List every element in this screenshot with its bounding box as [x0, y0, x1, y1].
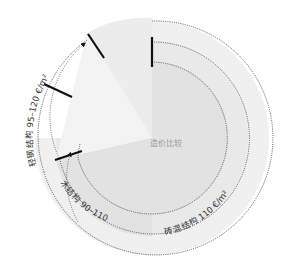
- center-title: 造价比较: [150, 138, 182, 148]
- cost-comparison-diagram: 轻钢结构 95–120 €/m² 木结构 90–110 €/m² 砖混结构 11…: [0, 0, 291, 276]
